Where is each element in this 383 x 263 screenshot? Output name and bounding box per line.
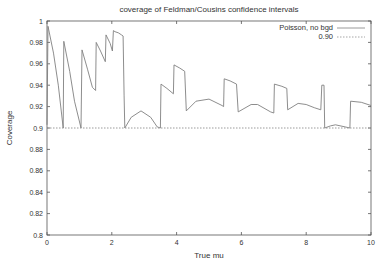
x-tick-label: 2	[110, 239, 114, 246]
y-tick-label: 1	[39, 18, 43, 25]
x-tick-label: 4	[175, 239, 179, 246]
y-tick-label: 0.92	[29, 103, 43, 110]
x-tick-label: 8	[304, 239, 308, 246]
chart-title: coverage of Feldman/Cousins confidence i…	[119, 5, 298, 14]
x-tick-label: 6	[239, 239, 243, 246]
y-axis-label: Coverage	[5, 110, 14, 145]
y-tick-label: 0.98	[29, 39, 43, 46]
legend-label-poisson: Poisson, no bgd	[279, 23, 333, 32]
legend: Poisson, no bgd 0.90	[279, 23, 365, 41]
y-tick-label: 0.96	[29, 60, 43, 67]
y-tick-label: 0.86	[29, 167, 43, 174]
y-tick-label: 0.82	[29, 210, 43, 217]
x-tick-label: 10	[367, 239, 375, 246]
y-tick-label: 0.8	[33, 232, 43, 239]
series-layer	[47, 26, 371, 128]
y-tick-label: 0.94	[29, 82, 43, 89]
coverage-chart: coverage of Feldman/Cousins confidence i…	[0, 0, 383, 263]
legend-label-090: 0.90	[318, 32, 333, 41]
x-tick-label: 0	[45, 239, 49, 246]
x-axis-label: True mu	[194, 251, 224, 260]
series-coverage-line	[47, 26, 371, 128]
x-axis: 0246810	[45, 21, 375, 246]
y-tick-label: 0.84	[29, 189, 43, 196]
y-tick-label: 0.9	[33, 125, 43, 132]
y-tick-label: 0.88	[29, 146, 43, 153]
